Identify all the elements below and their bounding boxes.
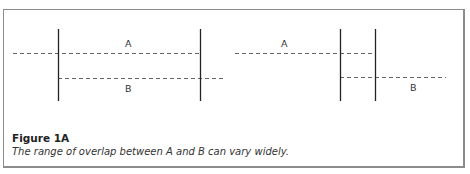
label-a: A: [281, 38, 288, 49]
label-b: B: [410, 82, 417, 93]
figure-caption: Figure 1A The range of overlap between A…: [12, 132, 289, 158]
figure-caption-text: The range of overlap between A and B can…: [12, 145, 289, 158]
figure-title: Figure 1A: [12, 132, 289, 145]
label-a: A: [125, 38, 132, 49]
panel-wide-overlap: A B: [13, 29, 225, 101]
panel-narrow-overlap: A B: [235, 29, 446, 101]
label-b: B: [125, 83, 132, 94]
